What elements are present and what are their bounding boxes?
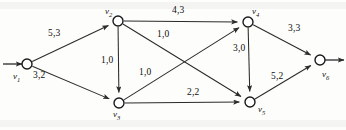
flow-network-figure: 5,33,24,31,01,01,02,23,03,35,2 v1v2v3v4v… bbox=[0, 0, 346, 130]
node-label-subscript-v6: 6 bbox=[326, 74, 329, 81]
edge-label-v2-to-v4: 4,3 bbox=[172, 6, 184, 16]
node-label-subscript-v4: 4 bbox=[256, 11, 259, 18]
node-v3[interactable] bbox=[114, 98, 124, 108]
node-label-subscript-v1: 1 bbox=[17, 76, 20, 83]
edge-v4-to-v5 bbox=[248, 28, 250, 92]
edge-label-v2-to-v3: 1,0 bbox=[101, 56, 113, 66]
edge-label-v4-to-v5: 3,0 bbox=[233, 44, 245, 54]
node-v1[interactable] bbox=[22, 59, 32, 69]
edge-label-v5-to-v6: 5,2 bbox=[271, 72, 283, 82]
node-v6[interactable] bbox=[315, 55, 325, 65]
terminal-layer bbox=[3, 60, 344, 64]
node-label-subscript-v5: 5 bbox=[262, 109, 265, 116]
edge-v2-to-v5 bbox=[123, 24, 241, 96]
edge-v2-to-v3 bbox=[118, 27, 119, 93]
edge-v3-to-v5 bbox=[125, 102, 240, 103]
node-v5[interactable] bbox=[245, 97, 255, 107]
node-label-subscript-v3: 3 bbox=[117, 114, 120, 121]
edge-label-v4-to-v6: 3,3 bbox=[288, 24, 300, 34]
graph-canvas bbox=[0, 0, 346, 130]
node-label-v5: v5 bbox=[258, 105, 265, 116]
edge-label-v3-to-v5: 2,2 bbox=[187, 88, 199, 98]
edge-label-v1-to-v2: 5,3 bbox=[48, 29, 60, 39]
edge-label-v3-to-v4: 1,0 bbox=[139, 68, 151, 78]
edge-v2-to-v4 bbox=[124, 21, 238, 22]
node-v2[interactable] bbox=[113, 16, 123, 26]
edge-v3-to-v4 bbox=[124, 28, 239, 100]
node-label-subscript-v2: 2 bbox=[109, 11, 112, 18]
node-label-v3: v3 bbox=[113, 110, 120, 121]
node-v4[interactable] bbox=[243, 17, 253, 27]
node-label-v1: v1 bbox=[13, 72, 20, 83]
node-label-v6: v6 bbox=[322, 70, 329, 81]
edge-v1-to-v2 bbox=[32, 26, 108, 62]
node-label-v4: v4 bbox=[252, 7, 259, 18]
edge-label-v1-to-v3: 3,2 bbox=[33, 71, 45, 81]
node-label-v2: v2 bbox=[105, 7, 112, 18]
node-layer bbox=[22, 16, 325, 108]
edge-layer bbox=[32, 21, 311, 103]
edge-label-v2-to-v5: 1,0 bbox=[157, 30, 169, 40]
edge-v4-to-v6 bbox=[253, 25, 311, 55]
